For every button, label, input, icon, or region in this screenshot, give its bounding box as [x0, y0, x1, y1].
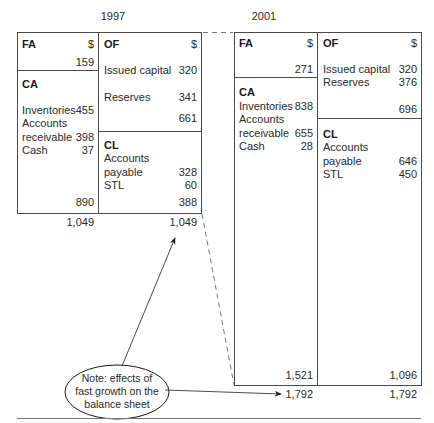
of-heading-1997: OF [104, 38, 119, 51]
ca-item-label: Cash [22, 144, 48, 157]
cl-item-value: 450 [385, 168, 417, 181]
cl-item-label: Accounts [323, 141, 368, 154]
ca-subtotal-1997: 890 [60, 196, 94, 209]
of-item-label: Reserves [323, 76, 369, 89]
cl-item-label: payable [104, 166, 143, 179]
of-item-value: 341 [165, 91, 197, 104]
of-subtotal-1997: 661 [165, 112, 197, 125]
growth-projection-lines [202, 33, 234, 386]
arrow-to-2001-total [165, 390, 281, 394]
of-subtotal-2001: 696 [385, 103, 417, 116]
of-item-value: 320 [385, 63, 417, 76]
of-item-value: 376 [385, 76, 417, 89]
total-liabilities-2001: 1,792 [373, 388, 417, 401]
note-line-1: Note: effects of [65, 372, 169, 385]
cl-item-label: STL [323, 168, 343, 181]
of-item-label: Issued capital [104, 64, 171, 77]
cl-item-value: 328 [165, 166, 197, 179]
cl-heading-1997: CL [104, 139, 119, 152]
cl-item-label: STL [104, 179, 124, 192]
of-item-label: Issued capital [323, 63, 390, 76]
fa-heading-1997: FA [22, 38, 36, 51]
fa-heading-2001: FA [239, 37, 253, 50]
cl-subtotal-1997: 388 [165, 196, 197, 209]
note-line-3: balance sheet [65, 398, 169, 411]
ca-heading-2001: CA [239, 86, 255, 99]
fa-value-2001: 271 [279, 63, 313, 76]
ca-item-label: Accounts [22, 117, 67, 130]
ca-item-value: 37 [60, 144, 94, 157]
total-assets-1997: 1,049 [50, 216, 94, 229]
cl-item-value: 646 [385, 155, 417, 168]
ca-heading-1997: CA [22, 78, 38, 91]
ca-item-value: 455 [60, 104, 94, 117]
ca-item-value: 838 [279, 100, 313, 113]
fa-currency-1997: $ [70, 38, 94, 51]
of-heading-2001: OF [323, 37, 338, 50]
note-callout: Note: effects of fast growth on the bala… [65, 372, 169, 411]
ca-item-value: 398 [60, 131, 94, 144]
total-assets-2001: 1,792 [269, 388, 313, 401]
cl-item-label: payable [323, 155, 362, 168]
ca-item-value: 28 [279, 140, 313, 153]
year-label-1997: 1997 [98, 10, 128, 23]
ca-item-label: Accounts [239, 113, 284, 126]
cl-subtotal-2001: 1,096 [373, 369, 417, 382]
ca-item-value: 655 [279, 127, 313, 140]
cl-item-value: 60 [165, 179, 197, 192]
fa-currency-2001: $ [290, 37, 313, 50]
year-label-2001: 2001 [249, 10, 279, 23]
ca-item-label: Cash [239, 140, 265, 153]
arrow-to-1997-total [122, 238, 175, 366]
cl-item-label: Accounts [104, 152, 149, 165]
of-item-value: 320 [165, 64, 197, 77]
cl-heading-2001: CL [323, 128, 338, 141]
of-item-label: Reserves [104, 91, 150, 104]
of-currency-1997: $ [170, 38, 197, 51]
total-liabilities-1997: 1,049 [153, 216, 197, 229]
ca-subtotal-2001: 1,521 [269, 369, 313, 382]
fa-value-1997: 159 [60, 56, 94, 69]
note-line-2: fast growth on the [65, 385, 169, 398]
of-currency-2001: $ [393, 37, 417, 50]
